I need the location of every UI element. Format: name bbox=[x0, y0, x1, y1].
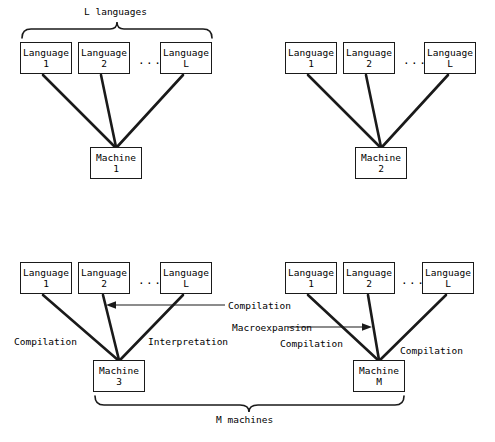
node-machine-1[interactable]: Machine 1 bbox=[90, 147, 142, 179]
node-language-2[interactable]: Language 2 bbox=[78, 42, 130, 74]
node-language-l[interactable]: Language L bbox=[422, 262, 474, 294]
node-label-line1: Machine bbox=[99, 365, 139, 376]
node-language-l[interactable]: Language L bbox=[160, 262, 212, 294]
node-label-line1: Language bbox=[163, 47, 209, 58]
node-label-line2: 1 bbox=[43, 58, 49, 69]
node-label-line2: 3 bbox=[116, 376, 122, 387]
node-language-l[interactable]: Language L bbox=[160, 42, 212, 74]
node-label-line1: Language bbox=[346, 267, 392, 278]
figure-canvas: L languages Language 1 Language 2 ... La… bbox=[0, 0, 495, 442]
brace-bottom-machines bbox=[95, 396, 404, 412]
node-label-line1: Machine bbox=[361, 152, 401, 163]
node-label-line1: Language bbox=[23, 47, 69, 58]
edge-label-compilation-left: Compilation bbox=[14, 336, 77, 347]
node-machine-m[interactable]: Machine M bbox=[353, 360, 405, 392]
node-label-line1: Machine bbox=[96, 152, 136, 163]
node-label-line1: Language bbox=[23, 267, 69, 278]
edges-panel-top-right bbox=[308, 75, 448, 147]
brace-label-l-languages: L languages bbox=[84, 6, 147, 17]
node-label-line2: L bbox=[183, 278, 189, 289]
node-label-line2: L bbox=[445, 278, 451, 289]
node-label-line1: Language bbox=[425, 267, 471, 278]
node-language-2[interactable]: Language 2 bbox=[343, 262, 395, 294]
node-language-1[interactable]: Language 1 bbox=[285, 42, 337, 74]
node-label-line1: Machine bbox=[359, 365, 399, 376]
edge-label-compilation-left: Compilation bbox=[280, 338, 343, 349]
ellipsis-languages: ... bbox=[138, 274, 162, 287]
node-label-line2: 1 bbox=[43, 278, 49, 289]
edge-label-macroexpansion-callout: Macroexpansion bbox=[232, 322, 312, 333]
node-label-line2: 2 bbox=[378, 163, 384, 174]
edges-panel-top-left bbox=[43, 75, 183, 147]
node-label-line2: 2 bbox=[366, 58, 372, 69]
node-label-line1: Language bbox=[81, 267, 127, 278]
node-label-line2: 1 bbox=[308, 278, 314, 289]
node-label-line1: Language bbox=[163, 267, 209, 278]
edge-label-compilation-right: Compilation bbox=[400, 345, 463, 356]
node-label-line1: Language bbox=[346, 47, 392, 58]
edge-label-compilation-callout: Compilation bbox=[228, 300, 291, 311]
node-language-1[interactable]: Language 1 bbox=[20, 42, 72, 74]
ellipsis-languages: ... bbox=[138, 54, 162, 67]
node-language-1[interactable]: Language 1 bbox=[20, 262, 72, 294]
node-language-2[interactable]: Language 2 bbox=[78, 262, 130, 294]
edge-label-interpretation-right: Interpretation bbox=[148, 336, 228, 347]
node-label-line2: 1 bbox=[308, 58, 314, 69]
node-machine-2[interactable]: Machine 2 bbox=[355, 147, 407, 179]
callout-arrow-compilation-left bbox=[106, 301, 225, 309]
node-label-line2: 2 bbox=[101, 278, 107, 289]
node-language-1[interactable]: Language 1 bbox=[285, 262, 337, 294]
node-label-line1: Language bbox=[427, 47, 473, 58]
node-label-line2: L bbox=[183, 58, 189, 69]
brace-top-languages bbox=[22, 22, 212, 38]
node-label-line2: 2 bbox=[366, 278, 372, 289]
node-machine-3[interactable]: Machine 3 bbox=[93, 360, 145, 392]
node-label-line1: Language bbox=[288, 47, 334, 58]
brace-label-m-machines: M machines bbox=[216, 414, 273, 425]
node-language-2[interactable]: Language 2 bbox=[343, 42, 395, 74]
node-label-line2: M bbox=[376, 376, 382, 387]
node-label-line1: Language bbox=[81, 47, 127, 58]
node-language-l[interactable]: Language L bbox=[424, 42, 476, 74]
node-label-line2: L bbox=[447, 58, 453, 69]
node-label-line2: 1 bbox=[113, 163, 119, 174]
node-label-line1: Language bbox=[288, 267, 334, 278]
node-label-line2: 2 bbox=[101, 58, 107, 69]
